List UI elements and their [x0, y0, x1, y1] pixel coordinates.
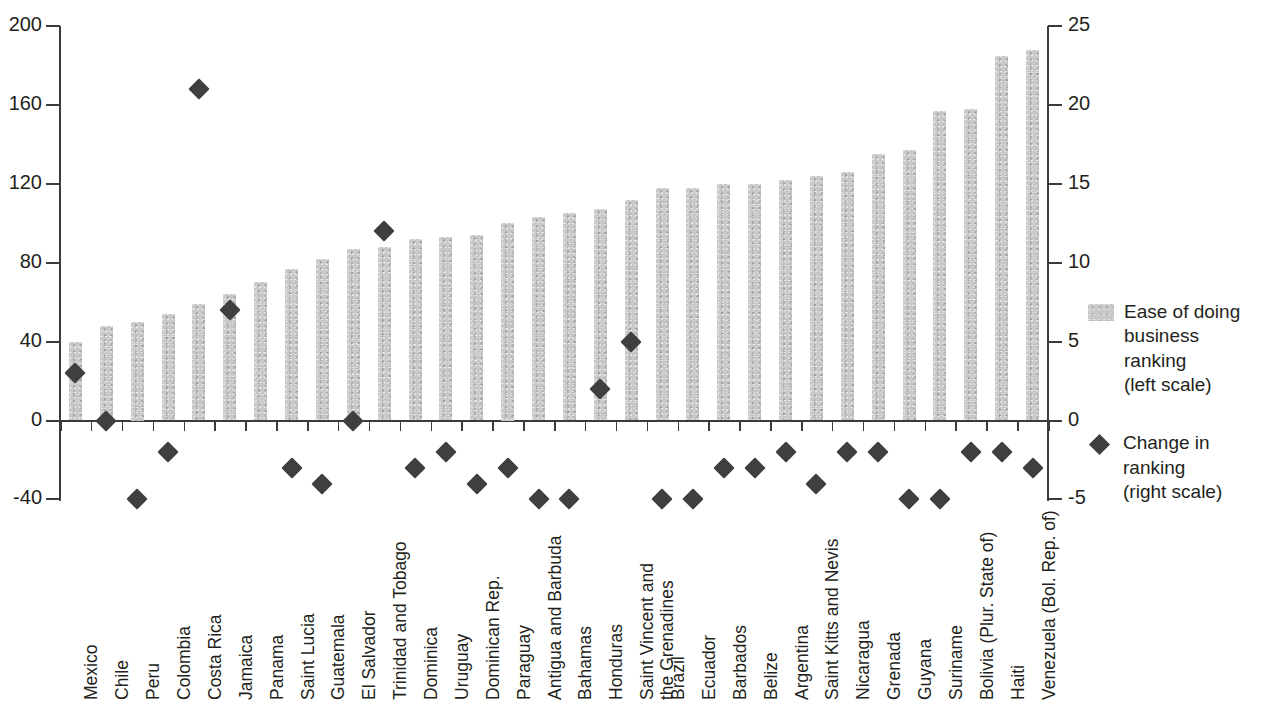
change-marker [404, 457, 425, 478]
change-marker [157, 441, 178, 462]
bar-swatch-icon [1088, 304, 1114, 321]
category-tick-mark [369, 421, 371, 431]
change-marker [775, 441, 796, 462]
bar [563, 213, 576, 420]
category-tick-mark [770, 421, 772, 431]
bar [841, 172, 854, 421]
category-tick-mark [708, 421, 710, 431]
left-tick-label: 80 [0, 250, 42, 273]
category-label: Colombia [175, 626, 195, 700]
category-tick-mark [122, 421, 124, 431]
category-tick-mark [986, 421, 988, 431]
category-tick-mark [1017, 421, 1019, 431]
category-label: Nicaragua [854, 620, 874, 700]
change-marker [281, 457, 302, 478]
category-label: Chile [113, 660, 133, 700]
bar [656, 188, 669, 421]
category-label: Ecuador [700, 635, 720, 700]
bar [470, 235, 483, 420]
left-tick-mark [46, 104, 60, 106]
bar [100, 326, 113, 421]
diamond-marker-icon [1089, 434, 1110, 455]
category-label: Uruguay [453, 634, 473, 700]
bar [625, 200, 638, 421]
change-marker [713, 457, 734, 478]
right-tick-mark [1048, 183, 1062, 185]
category-label: Bahamas [576, 626, 596, 700]
category-label: Jamaica [237, 635, 257, 700]
category-tick-mark [955, 421, 957, 431]
left-tick-mark [46, 183, 60, 185]
category-tick-mark [214, 421, 216, 431]
left-tick-mark [46, 498, 60, 500]
category-tick-mark [184, 421, 186, 431]
bar [439, 237, 452, 420]
category-tick-mark [894, 421, 896, 431]
right-tick-mark [1048, 25, 1062, 27]
category-tick-mark [431, 421, 433, 431]
category-label: Grenada [885, 632, 905, 700]
change-marker [559, 489, 580, 510]
change-marker [374, 221, 395, 242]
right-tick-mark [1048, 498, 1062, 500]
right-tick-mark [1048, 104, 1062, 106]
change-marker [497, 457, 518, 478]
left-tick-label: 200 [0, 13, 42, 36]
bar [933, 111, 946, 421]
category-label: Saint Kitts and Nevis [823, 539, 843, 700]
category-tick-mark [91, 421, 93, 431]
category-tick-mark [1048, 421, 1050, 431]
category-label: Haiti [1009, 665, 1029, 700]
right-tick-label: 20 [1068, 92, 1112, 115]
bar [748, 184, 761, 421]
bar [779, 180, 792, 421]
change-marker [435, 441, 456, 462]
category-tick-mark [461, 421, 463, 431]
change-marker [466, 473, 487, 494]
change-marker [1022, 457, 1043, 478]
bar [501, 223, 514, 420]
bar [347, 249, 360, 421]
bar [717, 184, 730, 421]
change-marker [960, 441, 981, 462]
category-tick-mark [492, 421, 494, 431]
category-tick-mark [245, 421, 247, 431]
change-marker [312, 473, 333, 494]
bar [254, 282, 267, 420]
change-marker [682, 489, 703, 510]
change-marker [898, 489, 919, 510]
category-label: Trinidad and Tobago [391, 541, 411, 700]
category-label: Dominican Rep. [484, 576, 504, 701]
category-label: Suriname [947, 625, 967, 700]
left-tick-label: 0 [0, 408, 42, 431]
right-tick-mark [1048, 420, 1062, 422]
change-marker [837, 441, 858, 462]
category-tick-mark [338, 421, 340, 431]
category-tick-mark [523, 421, 525, 431]
ease-of-doing-business-chart: 20016012080400-40 2520151050-5 MexicoChi… [0, 0, 1266, 712]
category-label: Peru [144, 663, 164, 700]
change-marker [528, 489, 549, 510]
left-tick-label: -40 [0, 486, 42, 509]
change-marker [188, 79, 209, 100]
category-tick-mark [739, 421, 741, 431]
bar [686, 188, 699, 421]
category-tick-mark [60, 421, 62, 431]
category-label: Paraguay [515, 625, 535, 700]
chart-legend: Ease of doing business ranking (left sca… [1088, 300, 1266, 538]
bar [872, 154, 885, 420]
change-marker [991, 441, 1012, 462]
legend-item-bar: Ease of doing business ranking (left sca… [1088, 300, 1266, 397]
category-label: Barbados [731, 625, 751, 700]
category-label: Mexico [82, 645, 102, 700]
category-tick-mark [276, 421, 278, 431]
category-tick-mark [925, 421, 927, 431]
left-tick-label: 160 [0, 92, 42, 115]
bar [285, 269, 298, 421]
category-label: Costa Rica [206, 614, 226, 700]
category-tick-mark [554, 421, 556, 431]
category-tick-mark [400, 421, 402, 431]
category-tick-mark [863, 421, 865, 431]
left-tick-mark [46, 420, 60, 422]
category-tick-mark [678, 421, 680, 431]
